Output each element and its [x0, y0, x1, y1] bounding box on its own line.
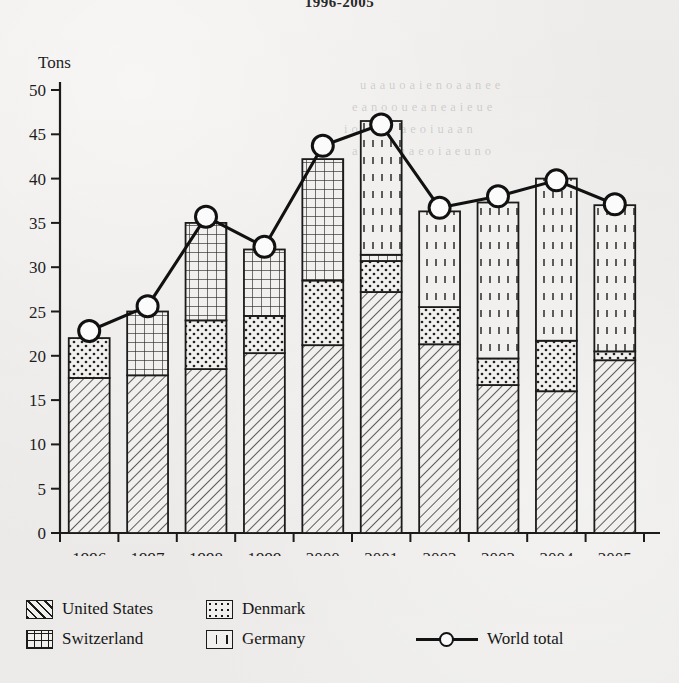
legend-item-united-states[interactable]: United States: [26, 599, 206, 619]
bar-segment-germany: [419, 211, 460, 307]
chart-svg: 05101520253035404550 1996199719981999200…: [0, 36, 679, 556]
bar-segment-united-states: [419, 344, 460, 533]
denmark-swatch-icon: [206, 600, 233, 619]
bar-segment-united-states: [69, 378, 110, 533]
x-tick-label: 2005: [598, 549, 632, 556]
bar-segment-germany: [594, 205, 635, 351]
bar-segment-denmark: [419, 307, 460, 344]
x-tick-label: 2001: [364, 549, 398, 556]
bar-segment-denmark: [244, 316, 285, 353]
bar-segment-united-states: [478, 385, 519, 533]
world-total-marker: [488, 186, 509, 207]
bar-segment-united-states: [127, 375, 168, 533]
world-total-marker: [429, 197, 450, 218]
bar-segment-united-states: [244, 353, 285, 533]
world-total-marker: [371, 114, 392, 135]
x-tick-label: 1997: [131, 549, 166, 556]
y-tick-label: 20: [29, 347, 46, 366]
legend-label-united-states: United States: [62, 599, 153, 619]
y-tick-label: 5: [38, 480, 47, 499]
bar-segment-switzerland: [127, 312, 168, 376]
y-tick-label: 30: [29, 258, 46, 277]
bar-segment-switzerland: [244, 249, 285, 315]
x-tick-label: 2000: [306, 549, 340, 556]
y-tick-label: 15: [29, 391, 46, 410]
bar-segment-denmark: [361, 261, 402, 292]
legend-row-1: United States Denmark: [26, 594, 666, 624]
x-tick-label: 1996: [72, 549, 106, 556]
chart-legend: United States Denmark Switzerland German…: [26, 594, 666, 664]
legend-item-world-total[interactable]: World total: [416, 629, 564, 649]
legend-item-denmark[interactable]: Denmark: [206, 599, 416, 619]
world-total-marker: [79, 320, 100, 341]
bar-segment-denmark: [302, 280, 343, 345]
united-states-swatch-icon: [26, 600, 53, 619]
y-axis-title: Tons: [38, 53, 71, 72]
legend-item-germany[interactable]: Germany: [206, 629, 416, 649]
y-axis: 05101520253035404550: [29, 81, 60, 543]
bar-segment-germany: [536, 179, 577, 341]
legend-item-switzerland[interactable]: Switzerland: [26, 629, 206, 649]
bar-segment-united-states: [361, 292, 402, 533]
bar-segment-switzerland: [361, 255, 402, 261]
chart-plot-area: 05101520253035404550 1996199719981999200…: [0, 36, 679, 556]
bar-segment-united-states: [594, 360, 635, 533]
x-tick-label: 2004: [539, 549, 574, 556]
bar-segment-switzerland: [302, 159, 343, 280]
x-tick-label: 2002: [423, 549, 457, 556]
y-tick-label: 35: [29, 214, 46, 233]
x-tick-label: 1999: [247, 549, 281, 556]
bar-segment-united-states: [536, 391, 577, 533]
bar-segment-denmark: [478, 358, 519, 385]
bar-segment-united-states: [302, 345, 343, 533]
legend-label-world-total: World total: [487, 629, 564, 649]
world-total-marker: [196, 206, 217, 227]
legend-label-denmark: Denmark: [242, 599, 305, 619]
x-tick-label: 2003: [481, 549, 515, 556]
legend-row-2: Switzerland Germany World total: [26, 624, 666, 654]
y-tick-label: 10: [29, 435, 46, 454]
bar-segment-denmark: [536, 341, 577, 392]
switzerland-swatch-icon: [26, 630, 53, 649]
y-tick-label: 0: [38, 524, 47, 543]
bar-segment-germany: [361, 121, 402, 255]
bar-segment-denmark: [69, 338, 110, 378]
x-axis: 1996199719981999200020012002200320042005: [60, 533, 660, 556]
legend-label-switzerland: Switzerland: [62, 629, 143, 649]
world-total-marker: [254, 236, 275, 257]
germany-swatch-icon: [206, 630, 233, 649]
bar-segment-denmark: [186, 320, 227, 369]
x-tick-label: 1998: [189, 549, 223, 556]
bar-segment-united-states: [186, 369, 227, 533]
y-tick-label: 45: [29, 125, 46, 144]
y-tick-label: 25: [29, 303, 46, 322]
bar-segment-denmark: [594, 351, 635, 360]
bar-segment-germany: [478, 203, 519, 359]
world-total-marker: [604, 194, 625, 215]
world-total-marker: [312, 135, 333, 156]
y-tick-label: 40: [29, 170, 46, 189]
world-total-marker-icon: [416, 629, 478, 649]
y-tick-label: 50: [29, 81, 46, 100]
legend-label-germany: Germany: [242, 629, 305, 649]
chart-title: 1996-2005: [0, 0, 679, 11]
world-total-marker: [546, 170, 567, 191]
world-total-marker: [137, 296, 158, 317]
